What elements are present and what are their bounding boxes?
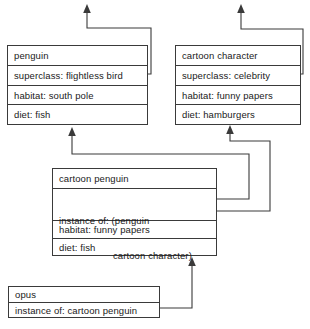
frame-cartoon-character-slot-habitat: habitat: funny papers xyxy=(176,86,300,105)
edge-cartoon-penguin-to-cartoon-character xyxy=(216,125,270,211)
frame-opus[interactable]: opus instance of: cartoon penguin xyxy=(8,286,160,318)
diagram-canvas: penguin superclass: flightless bird habi… xyxy=(0,0,310,329)
frame-opus-slot-instance-of-label: instance of: cartoon penguin xyxy=(15,305,137,316)
frame-cartoon-character-slot-superclass-label: superclass: celebrity xyxy=(182,70,270,81)
frame-penguin-slot-superclass-label: superclass: flightless bird xyxy=(14,70,123,81)
frame-cartoon-character-title: cartoon character xyxy=(176,46,300,66)
frame-cartoon-character-slot-diet: diet: hamburgers xyxy=(176,105,300,124)
frame-cartoon-penguin-name: cartoon penguin xyxy=(59,173,129,184)
frame-cartoon-penguin-slot-instance-of[interactable]: instance of: (penguin cartoon character) xyxy=(53,189,216,221)
frame-cartoon-penguin-slot-habitat-label: habitat: funny papers xyxy=(59,224,150,235)
frame-penguin-slot-habitat-label: habitat: south pole xyxy=(14,90,94,101)
frame-cartoon-character[interactable]: cartoon character superclass: celebrity … xyxy=(175,45,301,125)
frame-cartoon-penguin-slot-diet-label: diet: fish xyxy=(59,242,95,253)
frame-penguin-slot-diet: diet: fish xyxy=(8,105,147,124)
frame-cartoon-character-slot-habitat-label: habitat: funny papers xyxy=(182,90,273,101)
frame-penguin-title: penguin xyxy=(8,46,147,66)
frame-penguin-slot-habitat: habitat: south pole xyxy=(8,86,147,105)
frame-opus-slot-instance-of[interactable]: instance of: cartoon penguin xyxy=(9,303,159,318)
frame-penguin[interactable]: penguin superclass: flightless bird habi… xyxy=(7,45,148,125)
frame-opus-title: opus xyxy=(9,287,159,303)
frame-penguin-slot-superclass[interactable]: superclass: flightless bird xyxy=(8,66,147,86)
frame-cartoon-character-slot-superclass[interactable]: superclass: celebrity xyxy=(176,66,300,86)
frame-cartoon-character-slot-diet-label: diet: hamburgers xyxy=(182,109,255,120)
frame-cartoon-penguin-slot-diet: diet: fish xyxy=(53,239,216,256)
frame-cartoon-penguin[interactable]: cartoon penguin instance of: (penguin ca… xyxy=(52,168,217,256)
frame-cartoon-penguin-title: cartoon penguin xyxy=(53,169,216,189)
frame-cartoon-character-name: cartoon character xyxy=(182,50,258,61)
frame-penguin-slot-diet-label: diet: fish xyxy=(14,109,50,120)
frame-penguin-name: penguin xyxy=(14,50,49,61)
frame-cartoon-penguin-slot-habitat: habitat: funny papers xyxy=(53,221,216,239)
frame-opus-name: opus xyxy=(15,289,36,300)
